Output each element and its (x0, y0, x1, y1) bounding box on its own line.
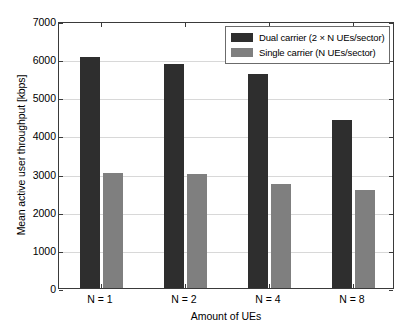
x-tick-label: N = 4 (233, 293, 303, 306)
y-tick-mark (59, 61, 63, 62)
y-tick-mark (389, 252, 393, 253)
y-tick-label: 0 (18, 284, 56, 295)
bar (332, 120, 352, 288)
y-tick-mark (389, 23, 393, 24)
legend-label-single-carrier: Single carrier (N UEs/sector) (259, 47, 376, 58)
legend-item-single-carrier: Single carrier (N UEs/sector) (231, 46, 384, 59)
chart-legend: Dual carrier (2 × N UEs/sector) Single c… (225, 26, 390, 64)
y-tick-mark (59, 214, 63, 215)
x-axis-label: Amount of UEs (58, 310, 394, 323)
bar (271, 184, 291, 288)
x-tick-mark (185, 284, 186, 288)
y-tick-mark (389, 290, 393, 291)
x-tick-label: N = 2 (149, 293, 219, 306)
y-tick-mark (59, 23, 63, 24)
y-tick-label: 4000 (18, 131, 56, 142)
legend-swatch-dual-carrier (231, 33, 253, 42)
legend-swatch-single-carrier (231, 48, 253, 57)
x-tick-label: N = 8 (317, 293, 387, 306)
y-tick-mark (59, 290, 63, 291)
gridline (59, 99, 393, 100)
chart-figure: Mean active user throughput [kbps] 01000… (0, 0, 404, 335)
bar (355, 190, 375, 288)
y-tick-mark (389, 99, 393, 100)
legend-item-dual-carrier: Dual carrier (2 × N UEs/sector) (231, 31, 384, 44)
y-tick-label: 6000 (18, 55, 56, 66)
y-tick-label: 2000 (18, 207, 56, 218)
legend-label-dual-carrier: Dual carrier (2 × N UEs/sector) (259, 32, 384, 43)
y-tick-label: 1000 (18, 245, 56, 256)
x-tick-mark (101, 284, 102, 288)
y-tick-mark (59, 252, 63, 253)
y-axis-tick-labels: 01000200030004000500060007000 (18, 0, 56, 335)
x-tick-mark (101, 23, 102, 27)
y-tick-mark (59, 176, 63, 177)
y-tick-mark (389, 176, 393, 177)
bar (187, 174, 207, 288)
x-tick-mark (269, 284, 270, 288)
y-tick-mark (389, 137, 393, 138)
bar (80, 57, 100, 288)
x-tick-label: N = 1 (65, 293, 135, 306)
y-tick-mark (389, 214, 393, 215)
x-tick-mark (185, 23, 186, 27)
y-tick-mark (59, 99, 63, 100)
y-tick-label: 5000 (18, 93, 56, 104)
bar (103, 173, 123, 288)
x-tick-mark (353, 284, 354, 288)
bar (164, 64, 184, 288)
y-tick-label: 7000 (18, 17, 56, 28)
y-tick-mark (59, 137, 63, 138)
x-axis-tick-labels: N = 1N = 2N = 4N = 8 (58, 293, 394, 307)
y-tick-label: 3000 (18, 169, 56, 180)
bar (248, 74, 268, 288)
